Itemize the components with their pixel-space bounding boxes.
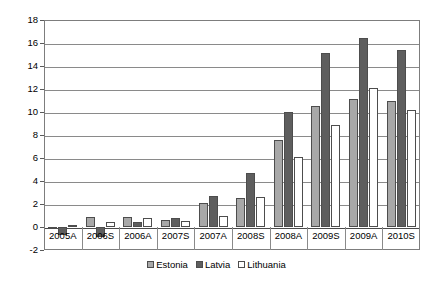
- bar-estonia-2009A: [349, 99, 358, 227]
- bar-group: [232, 20, 270, 250]
- bar-estonia-2009S: [311, 106, 320, 227]
- bar-estonia-2010S: [387, 101, 396, 228]
- legend-label: Lithuania: [247, 259, 286, 270]
- x-axis-label-2007S: 2007S: [157, 231, 195, 241]
- bar-estonia-2007S: [161, 220, 170, 227]
- y-axis-tick-label: -2: [8, 245, 38, 254]
- bar-lithuania-2009A: [369, 88, 378, 227]
- bar-group: [307, 20, 345, 250]
- bar-lithuania-2010S: [407, 110, 416, 227]
- x-axis-label-2009A: 2009A: [345, 231, 383, 241]
- bar-group: [44, 20, 82, 250]
- y-axis-tick-label: 0: [8, 222, 38, 231]
- bar-latvia-2007S: [171, 218, 180, 227]
- bar-latvia-2007A: [209, 196, 218, 227]
- bar-latvia-2006A: [133, 222, 142, 227]
- bar-latvia-2008S: [246, 173, 255, 227]
- bar-latvia-2008A: [284, 112, 293, 227]
- bar-estonia-2005A: [48, 227, 57, 229]
- bar-lithuania-2007S: [181, 221, 190, 227]
- x-axis-label-2007A: 2007A: [194, 231, 232, 241]
- bar-group: [382, 20, 420, 250]
- bar-lithuania-2006S: [106, 222, 115, 227]
- y-axis-tick-label: 16: [8, 38, 38, 47]
- bar-lithuania-2006A: [143, 218, 152, 227]
- bar-estonia-2008S: [236, 198, 245, 227]
- legend-swatch-lithuania: [238, 261, 245, 268]
- y-axis-tick-label: 2: [8, 199, 38, 208]
- bar-group: [157, 20, 195, 250]
- bar-chart: 181614121086420-2 2005A2006S2006A2007S20…: [0, 0, 433, 283]
- bars-layer: [44, 20, 420, 250]
- y-axis-tick-label: 8: [8, 130, 38, 139]
- bar-group: [82, 20, 120, 250]
- bar-estonia-2006A: [123, 217, 132, 227]
- y-axis-tick-label: 4: [8, 176, 38, 185]
- bar-lithuania-2009S: [331, 125, 340, 227]
- bar-lithuania-2008S: [256, 197, 265, 227]
- y-axis-tick-label: 6: [8, 153, 38, 162]
- bar-group: [270, 20, 308, 250]
- legend-item-lithuania: Lithuania: [238, 259, 286, 270]
- x-axis-label-2008A: 2008A: [270, 231, 308, 241]
- x-axis-label-2008S: 2008S: [232, 231, 270, 241]
- bar-estonia-2008A: [274, 140, 283, 227]
- y-axis-tick-label: 18: [8, 15, 38, 24]
- legend-item-latvia: Latvia: [196, 259, 230, 270]
- bar-estonia-2007A: [199, 203, 208, 227]
- x-axis-label-2006S: 2006S: [82, 231, 120, 241]
- bar-lithuania-2007A: [219, 216, 228, 228]
- chart-legend: EstoniaLatviaLithuania: [0, 259, 433, 270]
- legend-label: Latvia: [205, 259, 230, 270]
- bar-estonia-2006S: [86, 217, 95, 227]
- y-axis-tick-label: 10: [8, 107, 38, 116]
- y-axis-tick-label: 14: [8, 61, 38, 70]
- bar-group: [194, 20, 232, 250]
- legend-swatch-estonia: [147, 261, 154, 268]
- y-axis-tick-label: 12: [8, 84, 38, 93]
- bar-lithuania-2008A: [294, 157, 303, 227]
- bar-lithuania-2005A: [68, 225, 77, 227]
- x-axis-label-2009S: 2009S: [307, 231, 345, 241]
- bar-group: [345, 20, 383, 250]
- y-axis-tick-mark: [40, 250, 44, 251]
- legend-label: Estonia: [156, 259, 188, 270]
- bar-latvia-2009S: [321, 53, 330, 227]
- bar-latvia-2009A: [359, 38, 368, 227]
- bar-group: [119, 20, 157, 250]
- legend-swatch-latvia: [196, 261, 203, 268]
- bar-latvia-2010S: [397, 50, 406, 227]
- x-axis-label-2006A: 2006A: [119, 231, 157, 241]
- x-axis-label-2005A: 2005A: [44, 231, 82, 241]
- legend-item-estonia: Estonia: [147, 259, 188, 270]
- x-axis-label-2010S: 2010S: [382, 231, 420, 241]
